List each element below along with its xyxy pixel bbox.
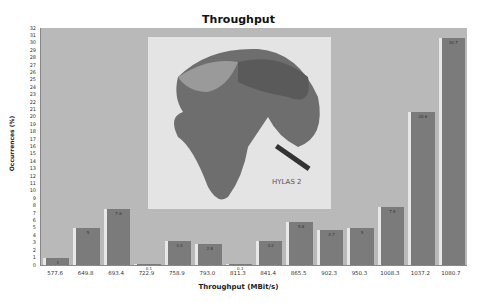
chart-title: Throughput <box>0 13 477 26</box>
bar: 1 <box>43 258 69 265</box>
y-tick: 27 <box>14 63 36 68</box>
bar: 5.8 <box>286 222 312 265</box>
y-tick: 28 <box>14 55 36 60</box>
bar-value-label: 30.7 <box>442 40 465 45</box>
y-tick: 20 <box>14 114 36 119</box>
bar-value-label: 5 <box>76 230 99 235</box>
bar-value-label: 3.2 <box>259 243 282 248</box>
y-tick: 19 <box>14 122 36 127</box>
inset-caption: HYLAS 2 <box>272 178 302 186</box>
bar: 3.2 <box>256 241 282 265</box>
y-tick: 25 <box>14 77 36 82</box>
y-tick: 21 <box>14 107 36 112</box>
bar: 20.6 <box>408 112 434 265</box>
y-tick: 31 <box>14 33 36 38</box>
bar-value-label: 4.7 <box>320 232 343 237</box>
y-tick: 8 <box>14 203 36 208</box>
bar-value-label: 7.9 <box>381 209 404 214</box>
bar-value-label: 5.8 <box>289 224 312 229</box>
bar-value-label: 1 <box>46 260 69 265</box>
bar-value-label: 5 <box>350 230 373 235</box>
bar: 30.7 <box>439 38 465 265</box>
bar: 4.7 <box>317 230 343 265</box>
y-tick: 12 <box>14 174 36 179</box>
bar-value-label: 20.6 <box>411 114 434 119</box>
y-tick: 13 <box>14 166 36 171</box>
y-tick: 0 <box>14 263 36 268</box>
inset-map-image <box>148 37 331 209</box>
bar: 0.1 <box>134 264 160 265</box>
y-tick: 11 <box>14 181 36 186</box>
y-tick: 9 <box>14 196 36 201</box>
y-tick: 23 <box>14 92 36 97</box>
x-tick: 1080.7 <box>433 270 469 276</box>
bar: 7.9 <box>378 207 404 266</box>
y-tick: 22 <box>14 100 36 105</box>
y-tick: 24 <box>14 85 36 90</box>
y-tick: 2 <box>14 248 36 253</box>
bar: 0.1 <box>226 264 252 265</box>
y-tick: 30 <box>14 40 36 45</box>
y-tick: 17 <box>14 137 36 142</box>
y-tick: 4 <box>14 233 36 238</box>
bar-value-label: 3.3 <box>168 243 191 248</box>
y-tick: 18 <box>14 129 36 134</box>
y-tick: 3 <box>14 240 36 245</box>
y-tick: 26 <box>14 70 36 75</box>
bar: 5 <box>73 228 99 265</box>
y-tick: 29 <box>14 48 36 53</box>
y-tick: 16 <box>14 144 36 149</box>
y-tick: 7 <box>14 211 36 216</box>
map-icon <box>148 37 331 209</box>
bar: 3.3 <box>165 241 191 265</box>
bar: 5 <box>347 228 373 265</box>
bar: 2.8 <box>195 244 221 265</box>
y-tick: 10 <box>14 188 36 193</box>
y-tick: 14 <box>14 159 36 164</box>
y-tick: 1 <box>14 255 36 260</box>
y-tick: 15 <box>14 151 36 156</box>
bar: 7.6 <box>104 209 130 265</box>
y-tick: 5 <box>14 225 36 230</box>
bar-value-label: 7.6 <box>107 211 130 216</box>
y-tick: 32 <box>14 26 36 31</box>
bar-value-label: 2.8 <box>198 246 221 251</box>
y-tick: 6 <box>14 218 36 223</box>
x-axis-label: Throughput (MBit/s) <box>0 283 477 291</box>
